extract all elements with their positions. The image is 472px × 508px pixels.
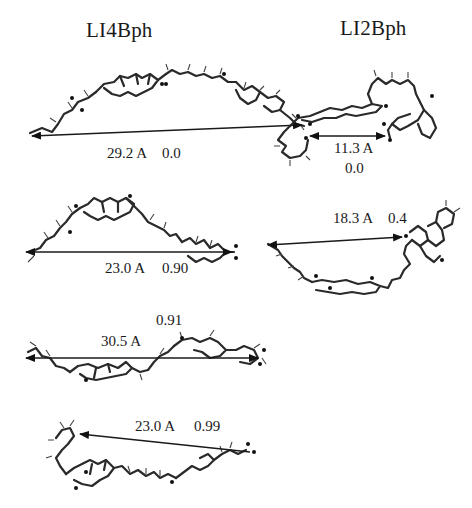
distance-label-li4bph-2: 23.0 A (105, 260, 145, 277)
molecule-li4bph-2 (26, 194, 238, 262)
value-label-li4bph-4: 0.99 (194, 418, 220, 435)
value-label-li4bph-3: 0.91 (156, 312, 182, 329)
distance-label-li4bph-3: 30.5 A (101, 333, 141, 350)
distance-label-li4bph-4: 23.0 A (135, 418, 175, 435)
molecule-li4bph-3 (26, 330, 266, 382)
distance-label-li4bph-1: 29.2 A (107, 145, 147, 162)
value-label-li4bph-2: 0.90 (162, 260, 188, 277)
distance-label-li2bph-2: 18.3 A (333, 210, 373, 227)
value-label-li4bph-1: 0.0 (162, 145, 181, 162)
value-label-li2bph-1: 0.0 (345, 160, 364, 177)
molecule-diagrams (0, 0, 472, 508)
distance-label-li2bph-1: 11.3 A (334, 140, 373, 157)
value-label-li2bph-2: 0.4 (388, 210, 407, 227)
molecule-li4bph-1 (30, 64, 308, 140)
